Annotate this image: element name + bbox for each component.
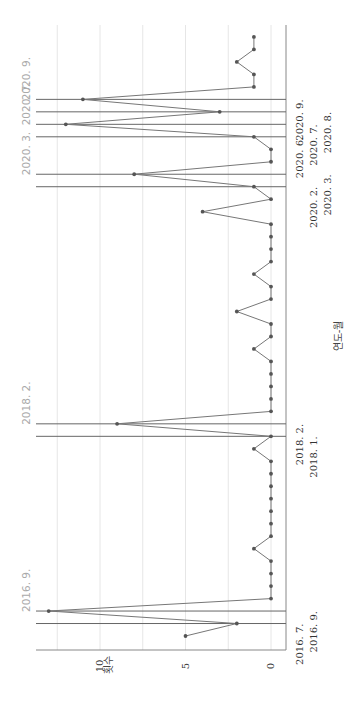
axes (36, 25, 286, 650)
data-point (252, 272, 256, 276)
data-point (269, 297, 273, 301)
annotation-label: 2020. 3. (20, 132, 32, 175)
data-point (269, 597, 273, 601)
data-point (269, 372, 273, 376)
data-point (252, 85, 256, 89)
x-tick-label: 2018. 2. (294, 424, 305, 465)
x-tick-label: 2016. 7. (294, 624, 305, 665)
data-series (47, 35, 273, 638)
data-point (252, 48, 256, 52)
data-point (252, 447, 256, 451)
x-tick-label: 2018. 1. (308, 436, 319, 477)
y-tick-label: 0 (265, 663, 276, 669)
data-point (64, 122, 68, 126)
data-point (269, 285, 273, 289)
x-tick-label: 2020. 3. (322, 174, 333, 215)
data-point (269, 247, 273, 251)
data-point (252, 73, 256, 77)
data-point (269, 434, 273, 438)
y-tick-label: 5 (180, 663, 191, 669)
data-point (115, 422, 119, 426)
data-point (132, 172, 136, 176)
data-point (235, 60, 239, 64)
data-point (269, 484, 273, 488)
data-point (269, 584, 273, 588)
data-point (252, 347, 256, 351)
data-point (269, 409, 273, 413)
y-axis-title: 횟수 (103, 656, 114, 674)
x-tick-label: 2020. 7. (308, 124, 319, 165)
data-point (218, 110, 222, 114)
data-point (252, 135, 256, 139)
data-point (269, 534, 273, 538)
annotations: 2016. 9.2018. 2.2020. 3.2020. 7.2020. 9. (20, 57, 32, 612)
data-point (269, 235, 273, 239)
data-point (269, 397, 273, 401)
y-axis-ticks: 0510 (94, 660, 276, 673)
data-point (269, 335, 273, 339)
data-point (252, 35, 256, 39)
gridlines (57, 25, 271, 650)
data-point (269, 572, 273, 576)
annotation-label: 2020. 9. (20, 57, 32, 100)
x-axis-title: 연도-월 (333, 321, 344, 352)
x-tick-label: 2020. 8. (322, 112, 333, 153)
data-point (269, 509, 273, 513)
data-point (81, 97, 85, 101)
x-tick-label: 2020. 2. (308, 187, 319, 228)
data-point (269, 322, 273, 326)
data-point (235, 622, 239, 626)
data-point (235, 310, 239, 314)
annotation-label: 2016. 9. (20, 569, 32, 612)
x-tick-label: 2020. 9. (294, 99, 305, 140)
data-point (252, 547, 256, 551)
data-point (269, 497, 273, 501)
data-point (269, 160, 273, 164)
x-axis-ticks: 2016. 7.2016. 9.2018. 1.2018. 2.2020. 2.… (294, 99, 333, 665)
data-point (269, 559, 273, 563)
data-point (269, 147, 273, 151)
data-point (269, 222, 273, 226)
data-point (269, 197, 273, 201)
x-tick-label: 2016. 9. (308, 611, 319, 652)
data-point (269, 472, 273, 476)
data-point (252, 185, 256, 189)
line-chart: 0510 2016. 7.2016. 9.2018. 1.2018. 2.202… (0, 0, 360, 703)
data-point (269, 260, 273, 264)
data-point (47, 609, 51, 613)
data-point (269, 459, 273, 463)
annotation-label: 2018. 2. (20, 381, 32, 424)
data-point (201, 210, 205, 214)
highlight-lines (36, 99, 286, 623)
data-point (269, 522, 273, 526)
data-point (184, 634, 188, 638)
series-line (49, 37, 271, 636)
data-point (269, 360, 273, 364)
x-tick-label: 2020. 6. (294, 137, 305, 178)
data-point (269, 385, 273, 389)
